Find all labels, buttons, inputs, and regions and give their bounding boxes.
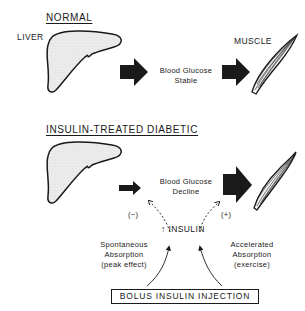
note-line: Accelerated <box>220 240 284 250</box>
liver-label: LIVER <box>17 32 44 42</box>
section-heading-diabetic: INSULIN-TREATED DIABETIC <box>46 124 198 135</box>
glucose-status-diabetic: Blood Glucose Decline <box>152 177 220 197</box>
arrow-icon-glucose-to-muscle-normal <box>222 58 250 86</box>
glucose-line2: Stable <box>152 76 220 86</box>
big-arrow-icon-glucose-to-muscle-diabetic <box>223 166 252 203</box>
note-line: (peak effect) <box>92 260 156 270</box>
liver-icon-normal <box>47 31 121 92</box>
muscle-label: MUSCLE <box>234 36 272 46</box>
note-line: Spontaneous <box>92 240 156 250</box>
insulin-text: INSULIN <box>168 224 204 234</box>
small-arrow-icon-liver-to-glucose <box>119 181 141 195</box>
glucose-status-normal: Blood Glucose Stable <box>152 66 220 86</box>
spontaneous-absorption-note: Spontaneous Absorption (peak effect) <box>92 240 156 270</box>
plus-effect-label: (+) <box>221 210 231 220</box>
up-arrow-icon: ↑ <box>161 224 166 234</box>
section-heading-normal: NORMAL <box>46 12 92 23</box>
liver-icon-diabetic <box>47 142 121 203</box>
muscle-icon-diabetic <box>254 152 296 210</box>
glucose-line1: Blood Glucose <box>152 177 220 187</box>
glucose-line2: Decline <box>152 187 220 197</box>
bolus-injection-box: BOLUS INSULIN INJECTION <box>111 289 259 304</box>
minus-effect-label: (−) <box>128 210 138 220</box>
accelerated-absorption-note: Accelerated Absorption (exercise) <box>220 240 284 270</box>
insulin-label: ↑ INSULIN <box>161 224 205 234</box>
glucose-line1: Blood Glucose <box>152 66 220 76</box>
note-line: (exercise) <box>220 260 284 270</box>
note-line: Absorption <box>92 250 156 260</box>
note-line: Absorption <box>220 250 284 260</box>
curved-arrow-icon-accelerated <box>200 247 222 286</box>
arrow-icon-liver-to-glucose-normal <box>120 58 148 86</box>
